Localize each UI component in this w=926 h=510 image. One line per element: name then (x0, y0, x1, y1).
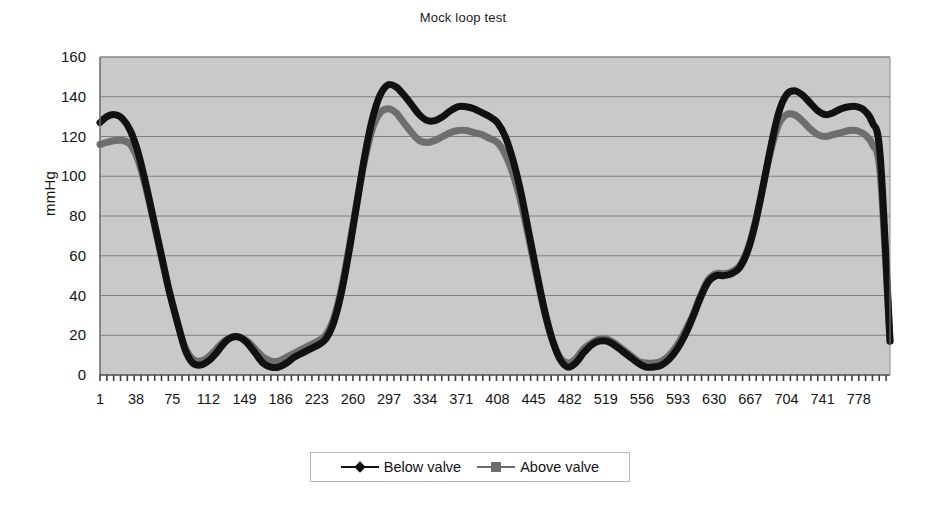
y-tick-60: 60 (42, 248, 86, 263)
legend-label-below-valve: Below valve (384, 459, 461, 475)
x-axis-tick-marks (100, 375, 886, 381)
y-tick-20: 20 (42, 327, 86, 342)
plot-area (0, 0, 926, 510)
chart-container: Mock loop test mmHg 02040608010012014016… (0, 0, 926, 510)
chart-legend[interactable]: Below valve Above valve (310, 452, 630, 482)
y-tick-100: 100 (42, 168, 86, 183)
series-below-valve (100, 84, 890, 367)
legend-item-below-valve[interactable]: Below valve (341, 459, 461, 475)
legend-item-above-valve[interactable]: Above valve (477, 459, 599, 475)
square-marker-icon (477, 461, 515, 473)
x-tick-778: 778 (837, 392, 881, 407)
plot-background (100, 57, 890, 375)
y-tick-80: 80 (42, 208, 86, 223)
y-tick-0: 0 (42, 367, 86, 382)
series-above-valve (100, 109, 890, 364)
diamond-marker-icon (341, 461, 379, 473)
y-tick-140: 140 (42, 89, 86, 104)
legend-label-above-valve: Above valve (520, 459, 599, 475)
gridlines (100, 57, 890, 335)
chart-title: Mock loop test (0, 10, 926, 25)
y-tick-160: 160 (42, 49, 86, 64)
y-tick-120: 120 (42, 129, 86, 144)
y-tick-40: 40 (42, 288, 86, 303)
axis-lines (100, 57, 890, 375)
data-series-layer (100, 84, 890, 367)
